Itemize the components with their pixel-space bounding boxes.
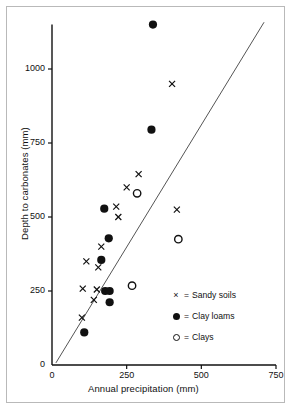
data-point-filled-circle <box>147 126 155 134</box>
y-tick-label: 1000 <box>15 63 45 73</box>
x-tick-label: 750 <box>261 370 291 380</box>
legend-label: Clays <box>192 332 214 342</box>
data-point-filled-circle <box>149 21 157 29</box>
x-tick-label: 250 <box>112 370 142 380</box>
legend-equals: = <box>184 311 189 321</box>
x-marker: × <box>170 290 182 300</box>
legend-label: Clay loams <box>192 311 235 321</box>
scatter-plot: Annual precipitation (mm) Depth to carbo… <box>0 0 293 411</box>
x-tick-label: 0 <box>37 370 67 380</box>
y-tick-label: 250 <box>15 285 45 295</box>
filled-circle-marker <box>170 311 182 321</box>
y-tick-label: 500 <box>15 211 45 221</box>
open-circle-marker <box>170 332 182 342</box>
legend-item: =Clay loams <box>184 311 235 321</box>
axes-and-data-svg <box>0 0 293 411</box>
data-point-filled-circle <box>97 256 105 264</box>
data-point-open-circle <box>128 282 135 289</box>
data-point-open-circle <box>133 190 140 197</box>
legend-equals: = <box>184 332 189 342</box>
legend-item: ×=Sandy soils <box>184 290 236 300</box>
y-tick-label: 750 <box>15 137 45 147</box>
y-axis-title: Depth to carbonates (mm) <box>19 114 30 254</box>
legend-item: =Clays <box>184 332 214 342</box>
legend-label: Sandy soils <box>192 290 236 300</box>
y-tick-label: 0 <box>15 359 45 369</box>
x-tick-label: 500 <box>186 370 216 380</box>
data-point-filled-circle <box>106 298 114 306</box>
series-clay-loams <box>80 21 157 337</box>
x-axis-title: Annual precipitation (mm) <box>88 383 199 394</box>
data-point-filled-circle <box>106 287 114 295</box>
legend-equals: = <box>184 290 189 300</box>
data-point-open-circle <box>175 236 182 243</box>
series-clays <box>128 190 182 290</box>
data-point-filled-circle <box>105 234 113 242</box>
data-point-filled-circle <box>100 205 108 213</box>
data-point-filled-circle <box>80 328 88 336</box>
